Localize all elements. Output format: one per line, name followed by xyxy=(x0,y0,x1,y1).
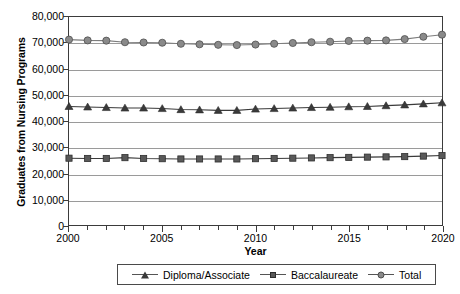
chart-legend: Diploma/AssociateBaccalaureateTotal xyxy=(117,264,436,285)
series-layer xyxy=(69,17,442,225)
data-point-marker xyxy=(439,153,445,159)
data-point-marker xyxy=(420,33,427,40)
legend-item-diploma-associate[interactable]: Diploma/Associate xyxy=(132,269,250,281)
legend-item-label: Total xyxy=(399,269,421,281)
x-axis-tick-mark xyxy=(237,226,238,230)
data-point-marker xyxy=(84,37,91,44)
data-point-marker xyxy=(122,155,128,161)
data-point-marker xyxy=(271,40,278,47)
x-axis-tick-mark xyxy=(199,226,200,230)
data-point-marker xyxy=(141,155,147,161)
x-axis-tick-label: 2005 xyxy=(132,232,192,244)
y-axis-tick-label: 30,000 xyxy=(16,141,64,153)
data-point-marker xyxy=(196,41,203,48)
data-point-marker xyxy=(290,155,296,161)
x-axis-tick-mark xyxy=(368,226,369,230)
y-axis-tick-label: 0 xyxy=(16,220,64,232)
x-axis-tick-mark xyxy=(293,226,294,230)
data-point-marker xyxy=(402,154,408,160)
series-diploma-associate xyxy=(65,99,446,113)
x-axis-tick-mark xyxy=(424,226,425,230)
x-axis-title: Year xyxy=(68,245,443,257)
data-point-marker xyxy=(215,156,221,162)
data-point-marker xyxy=(234,156,240,162)
circle-marker-icon xyxy=(368,269,394,281)
data-point-marker xyxy=(346,154,352,160)
x-axis-tick-mark xyxy=(106,226,107,230)
data-point-marker xyxy=(159,156,165,162)
data-point-marker xyxy=(66,155,72,161)
x-axis-tick-labels: 20002005201020152020 xyxy=(68,232,443,246)
data-point-marker xyxy=(65,36,72,43)
data-point-marker xyxy=(420,153,426,159)
y-axis-tick-label: 40,000 xyxy=(16,115,64,127)
data-point-marker xyxy=(140,39,147,46)
x-axis-tick-mark xyxy=(124,226,125,230)
y-axis-tick-label: 60,000 xyxy=(16,63,64,75)
series-baccalaureate xyxy=(66,153,445,163)
x-axis-tick-mark xyxy=(274,226,275,230)
x-axis-tick-label: 2015 xyxy=(319,232,379,244)
triangle-marker-icon xyxy=(132,269,158,281)
x-axis-tick-label: 2000 xyxy=(38,232,98,244)
data-point-marker xyxy=(196,156,202,162)
y-axis-tick-label: 10,000 xyxy=(16,194,64,206)
data-point-marker xyxy=(289,39,296,46)
data-point-marker xyxy=(271,155,277,161)
plot-area xyxy=(68,16,443,226)
data-point-marker xyxy=(438,31,445,38)
data-point-marker xyxy=(159,39,166,46)
data-point-marker xyxy=(177,40,184,47)
x-axis-tick-mark xyxy=(387,226,388,230)
x-axis-tick-mark xyxy=(312,226,313,230)
data-point-marker xyxy=(252,41,259,48)
square-marker-icon xyxy=(260,269,286,281)
data-point-marker xyxy=(364,37,371,44)
data-point-marker xyxy=(178,156,184,162)
y-axis-tick-label: 50,000 xyxy=(16,89,64,101)
data-point-marker xyxy=(85,155,91,161)
data-point-marker xyxy=(364,154,370,160)
series-total xyxy=(65,31,445,49)
legend-item-label: Baccalaureate xyxy=(291,269,358,281)
x-axis-tick-mark xyxy=(181,226,182,230)
y-axis-tick-label: 70,000 xyxy=(16,36,64,48)
y-axis-tick-label: 80,000 xyxy=(16,10,64,22)
y-axis-tick-labels: 010,00020,00030,00040,00050,00060,00070,… xyxy=(12,0,64,294)
x-axis-tick-label: 2010 xyxy=(226,232,286,244)
data-point-marker xyxy=(308,155,314,161)
data-point-marker xyxy=(308,39,315,46)
legend-item-total[interactable]: Total xyxy=(368,269,421,281)
x-axis-tick-mark xyxy=(143,226,144,230)
data-point-marker xyxy=(121,39,128,46)
x-axis-tick-mark xyxy=(218,226,219,230)
data-point-marker xyxy=(103,37,110,44)
legend-item-baccalaureate[interactable]: Baccalaureate xyxy=(260,269,358,281)
data-point-marker xyxy=(401,36,408,43)
x-axis-tick-label: 2020 xyxy=(413,232,460,244)
data-point-marker xyxy=(103,155,109,161)
x-axis-tick-mark xyxy=(87,226,88,230)
data-point-marker xyxy=(383,154,389,160)
data-point-marker xyxy=(327,155,333,161)
data-point-marker xyxy=(438,99,446,106)
data-point-marker xyxy=(382,37,389,44)
data-point-marker xyxy=(215,41,222,48)
data-point-marker xyxy=(252,156,258,162)
data-point-marker xyxy=(345,37,352,44)
data-point-marker xyxy=(327,38,334,45)
x-axis-tick-mark xyxy=(406,226,407,230)
data-point-marker xyxy=(233,42,240,49)
y-axis-tick-label: 20,000 xyxy=(16,168,64,180)
legend-item-label: Diploma/Associate xyxy=(163,269,250,281)
nursing-graduates-line-chart: Graduates from Nursing Programs 010,0002… xyxy=(0,0,460,294)
x-axis-tick-mark xyxy=(331,226,332,230)
